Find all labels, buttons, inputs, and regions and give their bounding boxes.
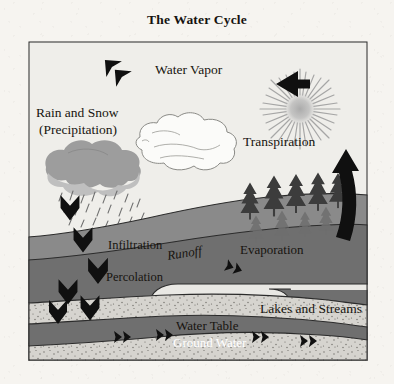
label-precipitation: (Precipitation) <box>39 122 117 137</box>
label-rain-and-snow: Rain and Snow <box>36 105 119 120</box>
label-infiltration: Infiltration <box>108 238 163 252</box>
label-water-table: Water Table <box>176 318 239 333</box>
label-ground-water: Ground Water <box>173 335 247 350</box>
label-water-vapor: Water Vapor <box>155 62 223 77</box>
label-evaporation: Evaporation <box>240 242 304 257</box>
water-cycle-diagram: Water Vapor Rain and Snow (Precipitation… <box>28 41 368 361</box>
label-percolation: Percolation <box>106 270 164 284</box>
label-lakes-and-streams: Lakes and Streams <box>260 301 362 316</box>
label-transpiration: Transpiration <box>243 134 316 149</box>
page-title: The Water Cycle <box>0 12 394 28</box>
lake-right-inlet <box>290 285 368 290</box>
